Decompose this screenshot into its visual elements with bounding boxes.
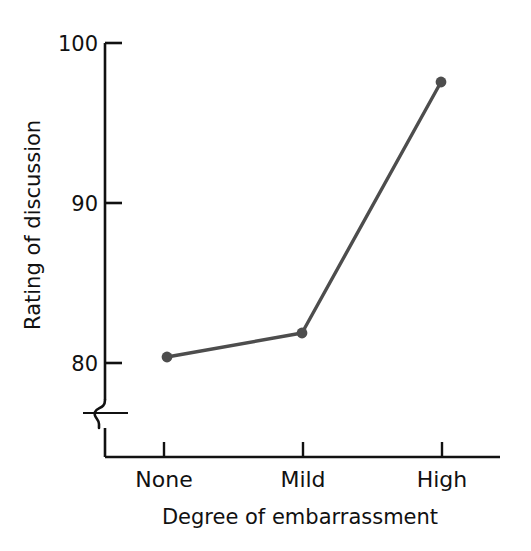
chart-figure: 100 90 80 Rating of discussion None Mild… (0, 0, 531, 551)
y-axis-title: Rating of discussion (21, 120, 45, 330)
x-tick-label-none: None (135, 467, 192, 492)
y-tick-label-80: 80 (71, 352, 98, 376)
x-axis-title: Degree of embarrassment (162, 505, 438, 529)
x-tick-label-high: High (417, 467, 468, 492)
data-point-high (436, 77, 447, 88)
data-point-none (162, 352, 173, 363)
y-tick-label-90: 90 (71, 192, 98, 216)
y-tick-label-100: 100 (58, 32, 98, 56)
line-chart-plot: 100 90 80 Rating of discussion None Mild… (0, 0, 531, 551)
x-tick-label-mild: Mild (280, 467, 325, 492)
data-point-mild (297, 328, 308, 339)
